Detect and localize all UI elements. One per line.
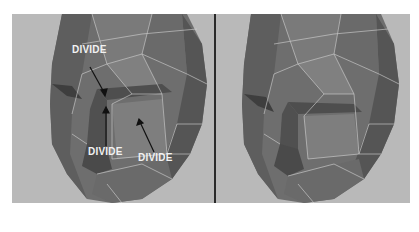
head-mesh-before [12, 14, 214, 203]
figure: DIVIDE DIVIDE DIVIDE [0, 0, 419, 232]
head-mesh-after [216, 14, 410, 203]
annotation-divide-bottom-left: DIVIDE [88, 146, 123, 157]
viewport-after [216, 14, 410, 203]
annotation-divide-top: DIVIDE [72, 44, 107, 55]
viewport-before: DIVIDE DIVIDE DIVIDE [12, 14, 214, 203]
annotation-divide-bottom-right: DIVIDE [138, 152, 173, 163]
